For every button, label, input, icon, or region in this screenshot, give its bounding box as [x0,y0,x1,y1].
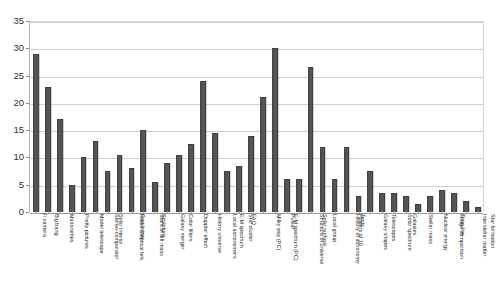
x-label-slot: Galaxy merger [161,214,173,299]
x-tick-mark [478,211,479,214]
x-tick-mark [323,211,324,214]
x-tick-mark [406,211,407,214]
x-label-slot: E-M spectrum (PC) [269,214,281,299]
x-label-slot: Image comparison [436,214,448,299]
bar [260,97,266,212]
bar-slot [365,21,377,212]
y-axis-labels: 05101520253035 [0,21,24,212]
bar-slot [42,21,54,212]
bar [403,196,409,212]
bar [236,166,242,212]
x-label-slot: Solar spectrum [388,214,400,299]
bar [272,48,278,212]
x-tick-mark [466,211,467,214]
bar-slot [149,21,161,212]
y-tick-label: 30 [0,44,24,54]
bar [368,171,374,212]
bar [45,87,51,213]
x-label-slot: History universe [197,214,209,299]
x-label-slot: Stellar mass [412,214,424,299]
bar [380,193,386,212]
bar-slot [245,21,257,212]
bar [117,155,123,212]
bar [284,179,290,212]
bar [93,141,99,212]
bar [176,155,182,212]
x-tick-mark [143,211,144,214]
bar [200,81,206,212]
x-label-slot: Pretty pictures [66,214,78,299]
bar-slot [54,21,66,212]
x-tick-label: Star formation [490,214,495,248]
bar-slot [400,21,412,212]
x-tick-mark [120,211,121,214]
bar-slot [329,21,341,212]
y-tick-mark [26,185,29,186]
bar [105,171,111,212]
x-label-slot: Solar surface [305,214,317,299]
x-label-slot: Sculpture [149,214,161,299]
y-tick-mark [26,157,29,158]
x-label-slot: Big bang [42,214,54,299]
bar-slot [90,21,102,212]
bar [332,179,338,212]
bar-slot [376,21,388,212]
x-label-slot: Solar interior [102,214,114,299]
x-tick-mark [167,211,168,214]
x-tick-mark [60,211,61,214]
bar-slot [221,21,233,212]
x-label-slot: Structure of universe [293,214,305,299]
x-tick-mark [96,211,97,214]
x-label-slot: Nuclear energy [424,214,436,299]
bar [296,179,302,212]
x-tick-mark [203,211,204,214]
x-label-slot: Gas lamps [126,214,138,299]
bar [224,171,230,212]
bars-layer [30,21,484,212]
y-tick-mark [26,212,29,213]
x-tick-mark [382,211,383,214]
y-tick-mark [26,103,29,104]
bar-slot [317,21,329,212]
x-tick-mark [132,211,133,214]
x-tick-mark [335,211,336,214]
bar-slot [341,21,353,212]
x-tick-mark [311,211,312,214]
x-label-slot: FAQ [245,214,257,299]
bar [188,144,194,212]
y-tick-mark [26,48,29,49]
x-tick-mark [454,211,455,214]
bar [81,157,87,212]
x-label-slot: Interstellar matter [460,214,472,299]
bar [153,182,159,212]
bar-slot [257,21,269,212]
x-tick-mark [239,211,240,214]
bar-slot [448,21,460,212]
x-label-slot: Stars of diff mass [138,214,150,299]
bar-slot [185,21,197,212]
bar-slot [138,21,150,212]
bar-slot [161,21,173,212]
bar-slot [66,21,78,212]
bar [356,196,362,212]
bar [451,193,457,212]
bar-slot [78,21,90,212]
x-label-slot: Galaxy shapes [365,214,377,299]
y-tick-label: 15 [0,125,24,135]
x-tick-mark [394,211,395,214]
x-label-slot: E-M spectrum [221,214,233,299]
x-tick-mark [191,211,192,214]
bar-slot [30,21,42,212]
x-label-slot: Ir camera [30,214,42,299]
x-label-slot: Marionettes [54,214,66,299]
x-label-slot: Pulsar [281,214,293,299]
bar [344,147,350,212]
bar [33,54,39,212]
x-label-slot: Telescopes [376,214,388,299]
x-tick-mark [430,211,431,214]
y-tick-label: 5 [0,180,24,190]
bar-slot [126,21,138,212]
x-tick-mark [299,211,300,214]
x-tick-mark [227,211,228,214]
bar-slot [197,21,209,212]
